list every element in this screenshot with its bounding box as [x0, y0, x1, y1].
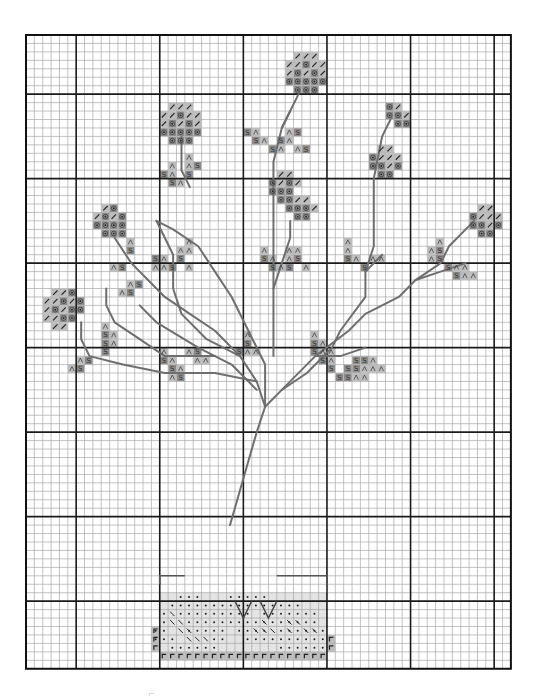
- svg-text:S: S: [178, 255, 183, 263]
- svg-text:S: S: [245, 340, 250, 348]
- svg-text:S: S: [329, 365, 334, 373]
- svg-text:S: S: [245, 129, 250, 137]
- svg-text:S: S: [103, 331, 108, 339]
- svg-text:S: S: [86, 357, 91, 365]
- svg-text:S: S: [279, 137, 284, 145]
- svg-text:S: S: [287, 264, 292, 272]
- svg-text:S: S: [195, 348, 200, 356]
- svg-text:S: S: [337, 374, 342, 382]
- svg-text:S: S: [170, 179, 175, 187]
- svg-text:S: S: [78, 365, 83, 373]
- svg-text:S: S: [187, 171, 192, 179]
- svg-text:S: S: [170, 264, 175, 272]
- svg-text:S: S: [178, 374, 183, 382]
- svg-text:S: S: [362, 264, 367, 272]
- svg-text:S: S: [446, 264, 451, 272]
- svg-text:S: S: [438, 255, 443, 263]
- svg-text:S: S: [321, 357, 326, 365]
- svg-text:S: S: [304, 146, 309, 154]
- svg-text:S: S: [103, 340, 108, 348]
- svg-text:S: S: [438, 247, 443, 255]
- svg-text:S: S: [162, 171, 167, 179]
- svg-text:S: S: [128, 247, 133, 255]
- cross-stitch-chart: SSSSSSSSSSSSSSSSSSSSSSSSSSSSSSSSSSSSSSSS…: [0, 0, 544, 700]
- svg-text:S: S: [354, 365, 359, 373]
- svg-text:S: S: [153, 255, 158, 263]
- svg-text:S: S: [237, 348, 242, 356]
- grid-minor-lines: [26, 35, 511, 669]
- svg-text:S: S: [362, 357, 367, 365]
- svg-text:S: S: [295, 129, 300, 137]
- svg-text:S: S: [312, 348, 317, 356]
- svg-text:S: S: [312, 340, 317, 348]
- svg-text:S: S: [346, 374, 351, 382]
- svg-text:S: S: [346, 255, 351, 263]
- svg-text:S: S: [120, 264, 125, 272]
- svg-text:S: S: [270, 146, 275, 154]
- svg-text:S: S: [195, 162, 200, 170]
- svg-text:S: S: [254, 137, 259, 145]
- svg-text:S: S: [170, 365, 175, 373]
- page-mark: ⌐: [148, 690, 155, 699]
- svg-text:S: S: [354, 357, 359, 365]
- svg-text:S: S: [162, 357, 167, 365]
- svg-text:S: S: [262, 255, 267, 263]
- svg-text:S: S: [270, 264, 275, 272]
- svg-text:S: S: [128, 289, 133, 297]
- svg-text:S: S: [295, 255, 300, 263]
- svg-text:S: S: [454, 272, 459, 280]
- svg-text:S: S: [103, 348, 108, 356]
- svg-text:S: S: [346, 365, 351, 373]
- svg-text:S: S: [137, 281, 142, 289]
